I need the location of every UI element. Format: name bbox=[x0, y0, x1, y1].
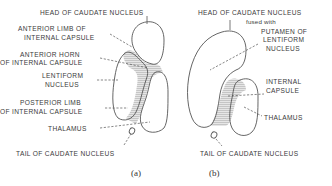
label-anterior-limb-a-line2: INTERNAL CAPSULE bbox=[24, 34, 95, 41]
label-anterior-horn-a-line1: ANTERIOR HORN bbox=[20, 51, 80, 58]
label-posterior-limb-a-line1: POSTERIOR LIMB bbox=[20, 99, 81, 106]
label-fused-with-b: fused with bbox=[246, 18, 276, 25]
internal-capsule-hatch-a bbox=[123, 50, 163, 124]
internal-capsule-hatch-b bbox=[210, 78, 246, 126]
label-posterior-limb-a-line2: OF INTERNAL CAPSULE bbox=[0, 108, 83, 115]
label-putamen-b-line1: PUTAMEN OF bbox=[261, 28, 307, 35]
caption-a: (a) bbox=[131, 168, 141, 178]
label-lentiform-a-line2: NUCLEUS bbox=[45, 81, 79, 88]
panel-a: HEAD OF CAUDATE NUCLEUS ANTERIOR LIMB OF… bbox=[0, 9, 168, 178]
label-internal-capsule-b-line1: INTERNAL bbox=[266, 78, 301, 85]
label-internal-capsule-b-line2: CAPSULE bbox=[266, 87, 299, 94]
brain-structures-diagram: HEAD OF CAUDATE NUCLEUS ANTERIOR LIMB OF… bbox=[0, 0, 332, 186]
label-head-caudate-b: HEAD OF CAUDATE NUCLEUS bbox=[198, 9, 302, 16]
label-tail-caudate-b: TAIL OF CAUDATE NUCLEUS bbox=[200, 150, 299, 157]
caption-b: (b) bbox=[209, 168, 220, 178]
caudate-tail-loop-b bbox=[210, 131, 218, 139]
label-putamen-b-line2: LENTIFORM bbox=[263, 36, 304, 43]
label-lentiform-a-line1: LENTIFORM bbox=[42, 72, 83, 79]
label-anterior-limb-a-line1: ANTERIOR LIMB OF bbox=[18, 25, 86, 32]
panel-b: HEAD OF CAUDATE NUCLEUS fused with PUTAM… bbox=[188, 9, 308, 178]
label-anterior-horn-a-line2: OF INTERNAL CAPSULE bbox=[0, 59, 83, 66]
label-tail-caudate-a: TAIL OF CAUDATE NUCLEUS bbox=[16, 150, 115, 157]
label-head-caudate-a: HEAD OF CAUDATE NUCLEUS bbox=[40, 9, 144, 16]
label-thalamus-a: THALAMUS bbox=[48, 125, 87, 132]
label-putamen-b-line3: NUCLEUS bbox=[266, 45, 300, 52]
label-thalamus-b: THALAMUS bbox=[264, 114, 303, 121]
caudate-tail-loop-a bbox=[128, 127, 135, 135]
